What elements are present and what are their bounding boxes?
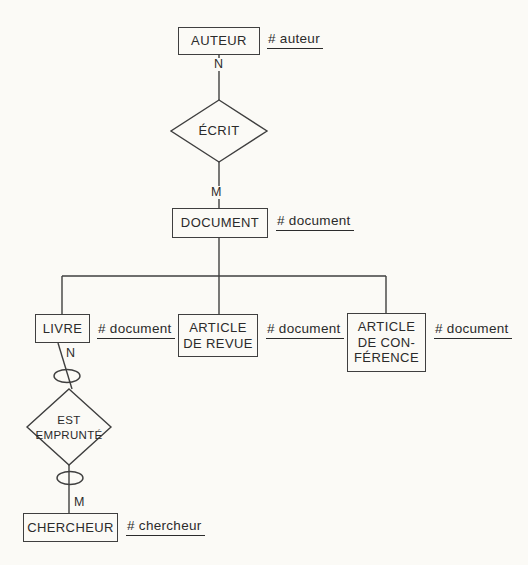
key-auteur: # auteur (267, 31, 323, 49)
entity-auteur: AUTEUR (178, 27, 260, 55)
link-ellipse-chercheur (57, 472, 83, 485)
diagram-connectors (0, 0, 528, 565)
cardinality-document-m: M (209, 186, 223, 199)
key-article-conference: # document (434, 321, 512, 339)
cardinality-chercheur-m: M (74, 496, 84, 509)
relation-est-emprunte-label: EST EMPRUNTÉ (19, 413, 119, 442)
key-livre: # document (97, 321, 175, 339)
cardinality-livre-n: N (66, 347, 75, 360)
entity-livre: LIVRE (35, 314, 90, 343)
key-chercheur: # chercheur (126, 518, 205, 536)
relation-ecrit-label: ÉCRIT (169, 123, 269, 138)
er-diagram: AUTEUR DOCUMENT LIVRE ARTICLE DE REVUE A… (0, 0, 528, 565)
entity-document: DOCUMENT (172, 208, 268, 238)
entity-chercheur: CHERCHEUR (23, 513, 118, 542)
cardinality-auteur-n: N (212, 58, 225, 71)
entity-article-revue: ARTICLE DE REVUE (178, 314, 258, 357)
key-article-revue: # document (266, 321, 344, 339)
key-document: # document (276, 213, 354, 231)
entity-article-conference: ARTICLE DE CON- FÉRENCE (347, 313, 426, 372)
